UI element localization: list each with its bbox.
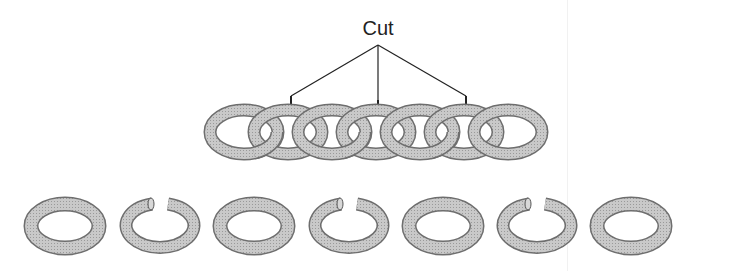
- ring-open-2: [126, 198, 194, 247]
- cut-callout-lines: [291, 45, 466, 111]
- chain-ring-7: [474, 110, 542, 154]
- ring-closed-5: [409, 204, 477, 248]
- ring-closed-7: [597, 204, 665, 248]
- separated-rings: [31, 198, 665, 248]
- ring-open-6: [503, 198, 571, 247]
- ring-open-4: [315, 198, 383, 247]
- ring-closed-3: [220, 204, 288, 248]
- chain-diagram: [0, 0, 732, 271]
- ring-closed-1: [31, 204, 99, 248]
- chain: [210, 110, 542, 154]
